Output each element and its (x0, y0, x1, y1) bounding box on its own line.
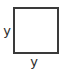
square-outline (14, 8, 58, 53)
square-diagram: y y (0, 0, 67, 73)
diagram-canvas: y y (0, 0, 67, 73)
bottom-side-label: y (30, 54, 38, 69)
left-side-label: y (3, 23, 11, 38)
